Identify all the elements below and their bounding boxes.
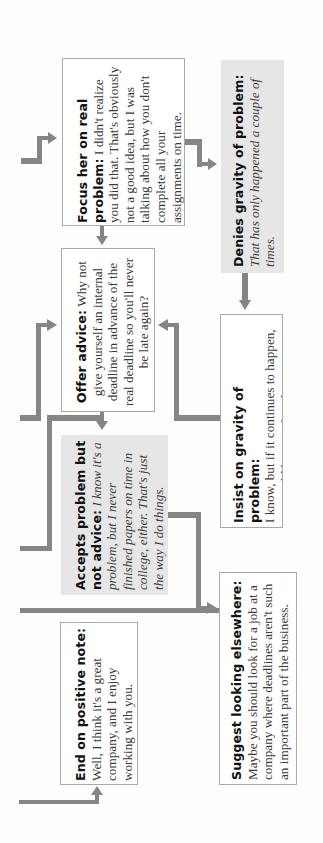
- arrowhead-icon: [158, 319, 168, 331]
- arrowhead-icon: [208, 158, 217, 170]
- node-text: Well, I think it's a great company, and …: [89, 658, 135, 781]
- node-label: Offer advice:: [74, 310, 89, 403]
- connector-long-horizontal: [20, 608, 220, 613]
- connector-into-end: [19, 800, 99, 804]
- connector-into-accepts-branch: [47, 415, 52, 549]
- connector-insist-offer: [175, 415, 220, 421]
- node-label: Insist on gravity of problem:: [231, 387, 262, 523]
- connector-accepts-suggest: [196, 512, 201, 611]
- node-text: I know, but if it continues to happen, y…: [262, 329, 283, 523]
- arrowhead-icon: [48, 132, 57, 144]
- node-suggest-looking-elsewhere: Suggest looking elsewhere: Maybe you sho…: [219, 572, 297, 785]
- node-accepts-problem-but-not-advice: Accepts problem but not advice: I know i…: [61, 435, 168, 595]
- connector-into-offer: [36, 323, 41, 421]
- connector-into-focus: [37, 136, 42, 164]
- flowchart: Focus her on real problem: I didn't real…: [0, 0, 323, 843]
- connector-denies-insist: [242, 273, 248, 303]
- connector-into-accepts-branch: [20, 546, 52, 551]
- arrowhead-icon: [239, 300, 251, 310]
- node-label: Suggest looking elsewhere:: [229, 580, 244, 780]
- node-text: Maybe you should look for a job at a com…: [245, 584, 291, 780]
- node-end-on-positive-note: End on positive note: Well, I think it's…: [60, 622, 138, 785]
- arrowhead-icon: [91, 786, 103, 795]
- node-text: That has only happened a couple of times…: [247, 79, 278, 267]
- node-label: Denies gravity of problem:: [231, 74, 246, 267]
- node-offer-advice: Offer advice: Why not give yourself an i…: [61, 248, 155, 412]
- arrowhead-icon: [96, 236, 108, 245]
- node-label: End on positive note:: [73, 628, 88, 781]
- connector-into-accepts-branch: [48, 415, 103, 421]
- arrowhead-icon: [47, 319, 57, 331]
- node-focus-her-on-real-problem: Focus her on real problem: I didn't real…: [62, 58, 185, 226]
- connector-insist-offer: [174, 323, 179, 421]
- node-insist-on-gravity-of-problem: Insist on gravity of problem: I know, bu…: [220, 314, 283, 528]
- node-denies-gravity-of-problem: Denies gravity of problem: That has only…: [221, 60, 284, 273]
- connector-insist-offer: [168, 323, 178, 327]
- arrowhead-icon: [96, 421, 108, 430]
